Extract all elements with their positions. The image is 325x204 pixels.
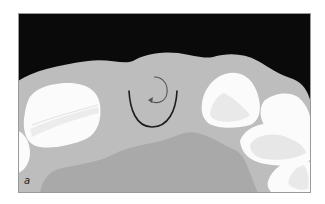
dental-illustration bbox=[18, 13, 311, 193]
panel-label: a bbox=[24, 176, 30, 186]
occlusal-view-svg bbox=[18, 13, 311, 193]
